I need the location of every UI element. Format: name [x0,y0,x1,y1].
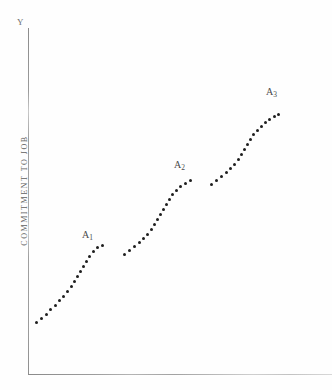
data-point-a3-0 [210,183,213,186]
data-point-a2-6 [150,228,153,231]
data-point-a3-7 [240,153,243,156]
data-point-a1-16 [96,246,99,249]
segment-label-a1-subscript: 1 [89,233,93,242]
data-point-a1-1 [40,317,43,320]
segment-label-a3-subscript: 3 [273,90,277,99]
data-point-a3-12 [256,129,259,132]
segment-label-a1: A1 [82,229,93,242]
data-point-a1-8 [70,285,73,288]
segment-label-a2-subscript: 2 [181,163,185,172]
data-point-a1-6 [62,295,65,298]
data-point-a2-1 [128,249,131,252]
data-point-a2-8 [156,218,159,221]
data-point-a1-13 [85,260,88,263]
data-point-a1-11 [79,270,82,273]
data-point-a1-12 [82,265,85,268]
data-point-a3-15 [268,118,271,121]
data-point-a3-14 [264,121,267,124]
data-point-a3-8 [243,148,246,151]
data-point-a1-7 [66,290,69,293]
data-point-a2-2 [133,245,136,248]
y-axis-top-marker: Y [17,17,24,27]
data-point-a1-0 [35,321,38,324]
data-point-a3-10 [249,138,252,141]
data-point-a3-5 [233,163,236,166]
data-point-a1-3 [49,308,52,311]
data-point-a2-13 [171,193,174,196]
data-point-a3-2 [220,175,223,178]
data-point-a1-14 [88,255,91,258]
data-point-a1-9 [73,280,76,283]
data-point-a1-17 [101,244,104,247]
data-point-a2-15 [179,185,182,188]
data-point-a3-1 [215,179,218,182]
data-point-a3-17 [277,113,280,116]
data-point-a2-14 [175,189,178,192]
data-point-a2-10 [162,208,165,211]
y-axis-title: COMMITMENT TO JOB [20,121,29,261]
segment-label-a3: A3 [266,86,277,99]
chart-figure: Y COMMITMENT TO JOB A1A2A3 [0,0,332,390]
data-point-a3-6 [237,158,240,161]
data-point-a2-16 [184,182,187,185]
data-point-a3-11 [252,133,255,136]
data-point-a2-11 [165,203,168,206]
data-point-a3-3 [225,171,228,174]
data-point-a3-16 [273,115,276,118]
data-point-a2-12 [168,198,171,201]
data-point-a3-9 [246,143,249,146]
data-point-a1-10 [76,275,79,278]
data-point-a1-2 [45,313,48,316]
data-point-a2-4 [142,237,145,240]
data-point-a1-15 [92,250,95,253]
data-point-a2-17 [189,179,192,182]
data-point-a3-13 [260,125,263,128]
data-point-a2-5 [146,233,149,236]
data-point-a2-3 [138,241,141,244]
segment-label-a2: A2 [174,159,185,172]
data-point-a3-4 [229,167,232,170]
data-point-a2-7 [153,223,156,226]
data-point-a1-5 [58,299,61,302]
data-point-a2-9 [159,213,162,216]
data-point-a2-0 [123,253,126,256]
data-point-a1-4 [54,304,57,307]
x-axis-line [28,374,332,375]
